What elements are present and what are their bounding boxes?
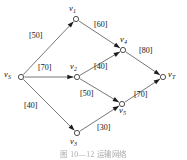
edge-capacity-label-v5-vT: [70]: [134, 91, 147, 99]
arrowhead-vS-to-v2: [67, 75, 73, 80]
edge-capacity-label-v2-v5: [50]: [80, 90, 93, 98]
node-vS: [18, 74, 23, 79]
node-label-v5: v5: [119, 106, 126, 115]
node-vT: [160, 74, 165, 79]
node-label-vS: vS: [4, 70, 11, 79]
network-flow-figure: vSv1v2v3v4v5vT [50][70][40][60][40][50][…: [0, 0, 187, 160]
node-label-v1: v1: [69, 4, 76, 13]
edges-group: [23, 21, 160, 131]
node-v1: [73, 16, 78, 21]
figure-caption: 图 10—12 运输网络: [0, 151, 187, 159]
edge-capacity-label-v1-v4: [60]: [94, 21, 107, 29]
arrowhead-v2-to-v5: [112, 97, 118, 102]
edge-capacity-label-vS-v1: [50]: [29, 32, 42, 40]
node-v3: [74, 130, 79, 135]
arrowhead-v2-to-v4: [113, 52, 120, 57]
edge-v4-to-vT: [126, 52, 160, 75]
edge-capacity-label-v2-v4: [40]: [94, 63, 107, 71]
node-label-v2: v2: [70, 62, 77, 71]
node-v2: [74, 74, 79, 79]
arrowhead-v5-to-vT: [154, 79, 160, 84]
arrowhead-v4-to-vT: [154, 70, 160, 75]
node-v4: [120, 47, 125, 52]
edge-capacity-label-v4-vT: [80]: [139, 47, 152, 55]
node-label-v3: v3: [70, 137, 77, 146]
node-label-vT: vT: [168, 70, 175, 79]
edge-capacity-label-vS-v3: [40]: [24, 102, 37, 110]
node-label-v4: v4: [120, 35, 127, 44]
edge-capacity-label-v3-v5: [30]: [97, 124, 110, 132]
edge-capacity-label-vS-v2: [70]: [38, 64, 51, 72]
